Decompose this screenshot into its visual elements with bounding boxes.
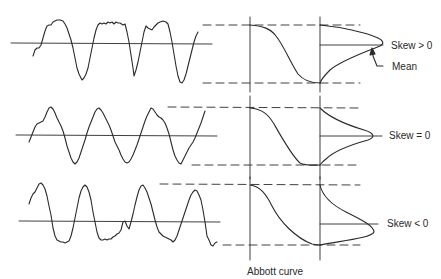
abbott-curve xyxy=(250,108,320,165)
skew-positive-label: Skew > 0 xyxy=(391,40,432,52)
panel-zero-skew xyxy=(16,96,382,179)
skew-negative-label: Skew < 0 xyxy=(387,218,428,230)
mean-label: Mean xyxy=(392,61,417,73)
profile-mean-line xyxy=(19,221,220,222)
panel-negative-skew xyxy=(19,177,378,260)
skew-zero-label: Skew = 0 xyxy=(389,130,430,142)
amplitude-distribution xyxy=(320,108,373,165)
amplitude-distribution xyxy=(320,185,374,245)
mean-arrowhead-icon xyxy=(370,48,375,55)
abbott-curve xyxy=(250,185,320,245)
surface-profile xyxy=(33,20,198,83)
diagram-canvas xyxy=(0,0,441,279)
peak-reference-line xyxy=(168,107,360,108)
abbott-curve xyxy=(250,25,320,83)
surface-profile xyxy=(29,183,217,246)
peak-reference-line xyxy=(160,184,360,185)
abbott-curve-caption: Abbott curve xyxy=(247,266,303,278)
profile-mean-line xyxy=(16,135,217,136)
panel-positive-skew xyxy=(11,17,383,92)
